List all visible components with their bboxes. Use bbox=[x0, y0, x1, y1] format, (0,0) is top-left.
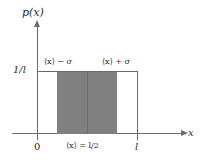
x-axis-arrow-icon bbox=[181, 130, 188, 136]
x-tick-end-label: l bbox=[135, 142, 138, 152]
x-tick-end bbox=[137, 128, 138, 140]
probability-density-figure: p(x) x 1/l 0 l ⟨x⟩ − σ ⟨x⟩ + σ ⟨x⟩ = l/2 bbox=[0, 0, 200, 168]
x-axis-label: x bbox=[188, 128, 194, 138]
x-tick-origin bbox=[37, 128, 38, 140]
left-sigma-annotation: ⟨x⟩ − σ bbox=[44, 58, 72, 66]
y-tick-label: 1/l bbox=[13, 65, 26, 75]
right-sigma-annotation: ⟨x⟩ + σ bbox=[102, 58, 130, 66]
y-axis-label: p(x) bbox=[22, 7, 44, 18]
y-axis-arrow-icon bbox=[34, 20, 40, 27]
uniform-distribution-outline bbox=[38, 71, 138, 134]
x-tick-origin-label: 0 bbox=[34, 142, 40, 152]
mean-annotation: ⟨x⟩ = l/2 bbox=[66, 142, 99, 150]
